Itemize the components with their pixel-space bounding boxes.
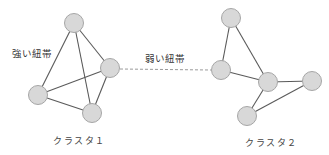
cluster1-caption: クラスタ１: [53, 136, 106, 146]
strong-tie-label: 強い紐帯: [12, 48, 52, 59]
cluster2-edges: [221, 18, 312, 116]
cluster2-caption: クラスタ２: [245, 138, 298, 148]
edge-c1-top-bottom: [74, 23, 92, 113]
node-c1-top: [65, 14, 84, 33]
node-c1-bottom: [83, 104, 102, 123]
edge-c1-top-left: [38, 23, 74, 95]
edge-c2-bottom-right: [247, 81, 312, 116]
node-c2-midleft: [212, 61, 231, 80]
edge-c1-left-right: [38, 68, 110, 95]
cluster1-nodes: [29, 14, 120, 123]
node-c2-center: [259, 73, 278, 92]
node-c1-left: [29, 86, 48, 105]
edge-c2-top-center: [231, 18, 268, 82]
node-c2-bottom: [238, 107, 257, 126]
weak-tie-label: 弱い紐帯: [145, 53, 185, 64]
weak-tie-edge: [120, 69, 211, 70]
social-network-diagram: 強い紐帯 弱い紐帯 クラスタ１ クラスタ２: [0, 0, 329, 155]
node-c1-right: [101, 59, 120, 78]
cluster2-nodes: [212, 9, 322, 126]
node-c2-top: [222, 9, 241, 28]
cluster1-edges: [38, 23, 110, 113]
node-c2-right: [303, 72, 322, 91]
